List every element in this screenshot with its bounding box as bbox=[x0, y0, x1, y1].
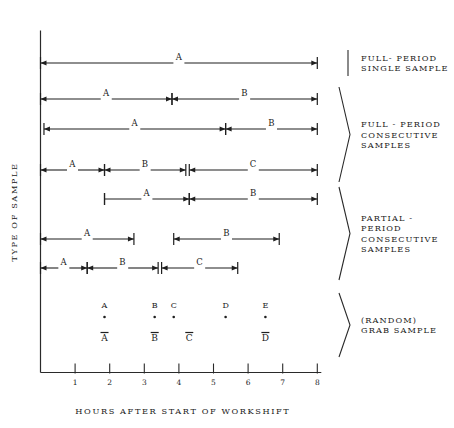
arrow-head bbox=[311, 126, 317, 131]
segment-label: A bbox=[83, 228, 91, 238]
group-label-line: SAMPLES bbox=[361, 140, 411, 150]
arrow-head bbox=[44, 126, 50, 131]
grab-sample-label: A bbox=[101, 301, 108, 310]
arrow-head bbox=[41, 236, 47, 241]
arrow-head bbox=[166, 96, 172, 101]
grab-sample-mean-label: C bbox=[186, 333, 193, 343]
x-axis-tick-label: 3 bbox=[142, 378, 147, 387]
segment-label: C bbox=[250, 159, 257, 169]
segment-label: A bbox=[60, 257, 68, 267]
grab-sample-label: D bbox=[222, 301, 228, 310]
x-axis-tick-label: 1 bbox=[73, 378, 78, 387]
group-label-line: PARTIAL - bbox=[361, 213, 413, 223]
x-axis-title: HOURS AFTER START OF WORKSHIFT bbox=[75, 406, 290, 416]
segment-label: B bbox=[250, 188, 257, 198]
arrow-head bbox=[172, 96, 178, 101]
group-label-line: FULL - PERIOD bbox=[361, 119, 441, 129]
arrow-head bbox=[183, 196, 189, 201]
arrow-head bbox=[41, 167, 47, 172]
grab-sample-point bbox=[103, 316, 106, 319]
group-label-line: GRAB SAMPLE bbox=[361, 325, 437, 335]
arrow-head bbox=[99, 167, 105, 172]
arrow-head bbox=[174, 236, 180, 241]
arrow-head bbox=[311, 196, 317, 201]
arrow-head bbox=[162, 265, 168, 270]
arrow-head bbox=[105, 167, 111, 172]
segment-label: C bbox=[196, 257, 203, 267]
arrow-head bbox=[189, 167, 195, 172]
group-label-line: FULL- PERIOD bbox=[361, 53, 437, 63]
arrow-head bbox=[311, 96, 317, 101]
group-bracket bbox=[339, 293, 350, 357]
arrow-head bbox=[311, 60, 317, 65]
arrow-head bbox=[189, 196, 195, 201]
arrow-head bbox=[152, 265, 158, 270]
sampling-strategy-diagram: 12345678HOURS AFTER START OF WORKSHIFTTY… bbox=[0, 0, 454, 428]
segment-label: B bbox=[142, 159, 149, 169]
arrow-head bbox=[220, 126, 226, 131]
x-axis-tick-label: 7 bbox=[280, 378, 285, 387]
group-bracket bbox=[339, 187, 350, 280]
grab-sample-point bbox=[264, 316, 267, 319]
y-axis-title: TYPE OF SAMPLE bbox=[9, 162, 19, 261]
grab-sample-label: C bbox=[171, 301, 177, 310]
group-label-line: SINGLE SAMPLE bbox=[361, 63, 449, 73]
diagram-canvas: 12345678HOURS AFTER START OF WORKSHIFTTY… bbox=[0, 0, 454, 428]
segment-label: A bbox=[143, 188, 151, 198]
x-axis-tick-label: 4 bbox=[177, 378, 182, 387]
grab-sample-mean-label: D bbox=[262, 333, 269, 343]
group-label-line: CONSECUTIVE bbox=[361, 234, 439, 244]
arrow-head bbox=[180, 167, 186, 172]
group-label-line: PERIOD bbox=[361, 223, 402, 233]
group-label-line: SAMPLES bbox=[361, 244, 411, 254]
arrow-head bbox=[81, 265, 87, 270]
arrow-head bbox=[41, 60, 47, 65]
x-axis-tick-label: 5 bbox=[211, 378, 216, 387]
segment-label: B bbox=[119, 257, 126, 267]
arrow-head bbox=[311, 167, 317, 172]
grab-sample-point bbox=[153, 316, 156, 319]
segment-label: A bbox=[68, 159, 76, 169]
group-bracket bbox=[339, 87, 350, 182]
arrow-head bbox=[226, 126, 232, 131]
segment-label: B bbox=[241, 88, 248, 98]
segment-label: A bbox=[131, 118, 139, 128]
segment-label: A bbox=[175, 52, 183, 62]
arrow-head bbox=[87, 265, 93, 270]
x-axis-tick-label: 2 bbox=[107, 378, 112, 387]
arrow-head bbox=[41, 265, 47, 270]
arrow-head bbox=[273, 236, 279, 241]
x-axis-tick-label: 8 bbox=[315, 378, 320, 387]
arrow-head bbox=[41, 96, 47, 101]
grab-sample-label: E bbox=[262, 301, 268, 310]
group-label-line: CONSECUTIVE bbox=[361, 130, 439, 140]
grab-sample-mean-label: A bbox=[100, 333, 108, 343]
segment-label: A bbox=[102, 88, 110, 98]
segment-label: B bbox=[268, 118, 275, 128]
group-label-line: (RANDOM) bbox=[361, 315, 417, 325]
grab-sample-label: B bbox=[152, 301, 158, 310]
grab-sample-point bbox=[224, 316, 227, 319]
segment-label: B bbox=[223, 228, 230, 238]
arrow-head bbox=[232, 265, 238, 270]
x-axis-tick-label: 6 bbox=[246, 378, 251, 387]
arrow-head bbox=[128, 236, 134, 241]
grab-sample-point bbox=[172, 316, 175, 319]
grab-sample-mean-label: B bbox=[151, 333, 158, 343]
